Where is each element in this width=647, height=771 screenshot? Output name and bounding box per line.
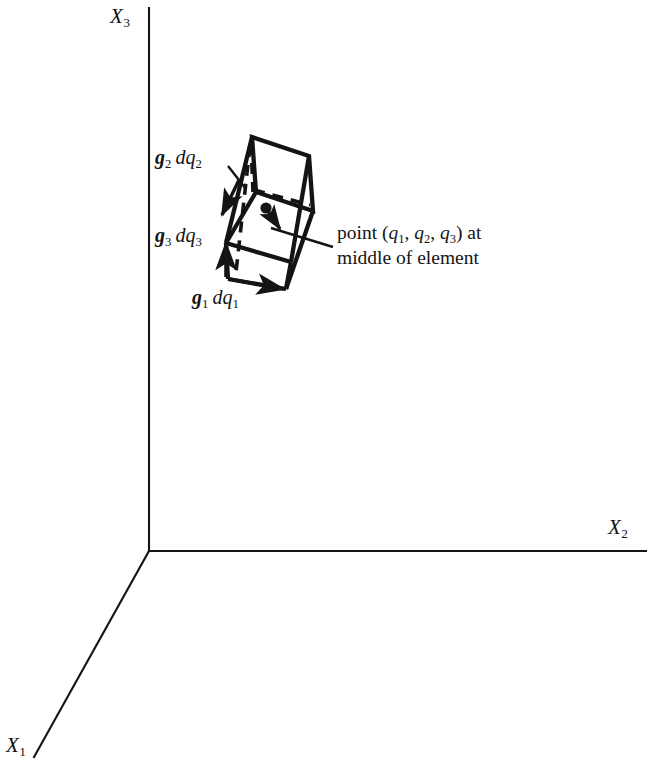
annotation-line-2: middle of element xyxy=(337,246,493,269)
center-point-annotation: point (q1, q2, q3) at middle of element xyxy=(337,221,493,269)
axis-label-x2: X2 xyxy=(608,515,628,542)
axis-label-x3: X3 xyxy=(110,4,130,31)
annotation-line-1: point (q1, q2, q3) at xyxy=(337,222,481,243)
figure-canvas: X3 X2 X1 g2dq2 g3dq3 g1dq1 point (q1, q2… xyxy=(0,0,647,771)
vector-label-g2dq2: g2dq2 xyxy=(155,146,202,172)
vector-label-g1dq1: g1dq1 xyxy=(192,286,239,312)
center-point-arrow xyxy=(268,211,280,229)
diagram-svg xyxy=(0,0,647,771)
axis-x1 xyxy=(34,551,149,757)
vector-label-g3dq3: g3dq3 xyxy=(155,224,202,250)
axis-label-x1: X1 xyxy=(6,733,26,760)
